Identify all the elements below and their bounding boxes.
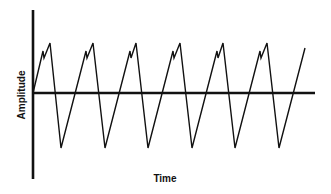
- waveform-chart: [0, 0, 331, 194]
- x-axis-label: Time: [153, 173, 176, 184]
- y-axis-label: Amplitude: [16, 71, 27, 120]
- waveform-line: [33, 43, 305, 148]
